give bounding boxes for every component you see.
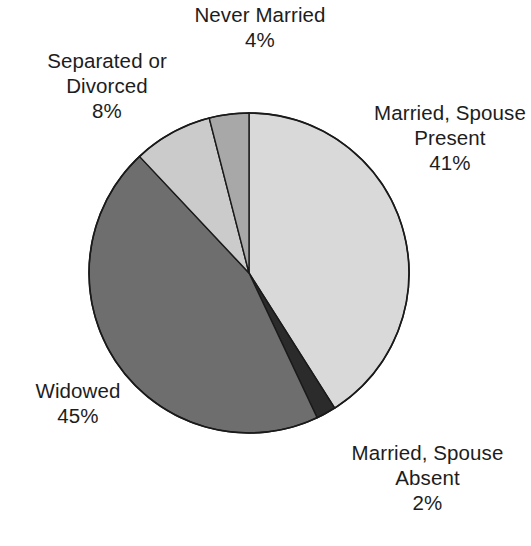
slice-label-separated-or-divorced-line2: Divorced: [12, 73, 202, 98]
slice-label-widowed: Widowed 45%: [8, 378, 148, 428]
slice-label-married-spouse-absent-line1: Married, Spouse: [330, 440, 525, 465]
slice-label-widowed-line1: Widowed: [8, 378, 148, 403]
slice-label-married-spouse-present-line1: Married, Spouse: [370, 100, 530, 125]
slice-label-never-married: Never Married 4%: [170, 2, 350, 52]
slice-label-separated-or-divorced-percent: 8%: [12, 98, 202, 123]
slice-label-married-spouse-absent-line2: Absent: [330, 465, 525, 490]
slice-label-separated-or-divorced-line1: Separated or: [12, 48, 202, 73]
slice-label-never-married-line1: Never Married: [170, 2, 350, 27]
slice-label-married-spouse-present: Married, Spouse Present 41%: [370, 100, 530, 175]
slice-label-married-spouse-present-percent: 41%: [370, 150, 530, 175]
slice-label-married-spouse-absent: Married, Spouse Absent 2%: [330, 440, 525, 515]
slice-label-married-spouse-present-line2: Present: [370, 125, 530, 150]
pie-chart: Never Married 4% Separated or Divorced 8…: [0, 0, 531, 546]
slice-label-widowed-percent: 45%: [8, 403, 148, 428]
slice-label-married-spouse-absent-percent: 2%: [330, 490, 525, 515]
slice-label-separated-or-divorced: Separated or Divorced 8%: [12, 48, 202, 123]
